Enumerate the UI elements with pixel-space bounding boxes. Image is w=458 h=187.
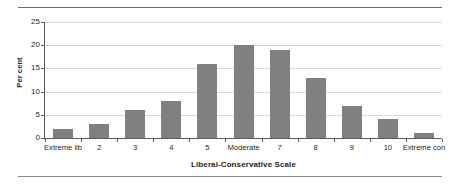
bar [270, 50, 290, 138]
y-axis-tick-labels: 0510152025 [20, 0, 40, 187]
bar [53, 129, 73, 138]
bar [197, 64, 217, 138]
x-tick-mark [153, 139, 154, 142]
x-tick-label: Extreme con [384, 143, 458, 152]
y-tick-label: 20 [22, 41, 40, 49]
y-tick-label: 15 [22, 64, 40, 72]
x-tick-mark [81, 139, 82, 142]
bar [125, 110, 145, 138]
y-tick-label: 25 [22, 18, 40, 26]
bar [306, 78, 326, 138]
x-tick-mark [117, 139, 118, 142]
x-tick-mark [189, 139, 190, 142]
x-tick-mark [334, 139, 335, 142]
plot-area [45, 22, 442, 138]
y-tick-label: 10 [22, 88, 40, 96]
x-axis-line [44, 138, 442, 139]
x-tick-mark [45, 139, 46, 142]
x-tick-mark [370, 139, 371, 142]
x-tick-mark [225, 139, 226, 142]
bar [378, 119, 398, 138]
x-tick-mark [262, 139, 263, 142]
y-tick-mark [41, 115, 45, 116]
y-tick-mark [41, 22, 45, 23]
bottom-divider-rule [18, 176, 442, 177]
top-divider-rule [18, 7, 442, 8]
x-tick-mark [406, 139, 407, 142]
y-tick-mark [41, 45, 45, 46]
bar [342, 106, 362, 138]
y-tick-label: 0 [22, 134, 40, 142]
bar-chart-figure: Per cent 0510152025 Liberal-Conservative… [0, 0, 458, 187]
y-tick-label: 5 [22, 111, 40, 119]
x-axis-title: Liberal-Conservative Scale [45, 160, 442, 169]
bar [161, 101, 181, 138]
x-tick-mark [298, 139, 299, 142]
x-tick-mark [442, 139, 443, 142]
bar [234, 45, 254, 138]
bar [89, 124, 109, 138]
gridline [45, 22, 442, 23]
y-tick-mark [41, 92, 45, 93]
y-tick-mark [41, 68, 45, 69]
